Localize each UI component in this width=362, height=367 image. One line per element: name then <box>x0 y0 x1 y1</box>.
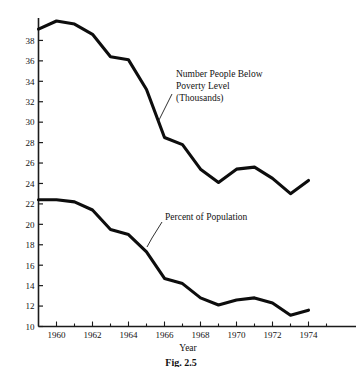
x-tick-label-1974: 1974 <box>300 330 319 340</box>
y-tick-label-36: 36 <box>26 56 36 66</box>
y-tick-label-16: 16 <box>26 261 36 271</box>
annotation-line-1-series-0: Number People Below <box>176 69 263 79</box>
x-tick-label-1970: 1970 <box>228 330 247 340</box>
y-tick-label-20: 20 <box>26 220 36 230</box>
y-tick-label-32: 32 <box>26 97 35 107</box>
x-tick-label-1972: 1972 <box>264 330 282 340</box>
annotation-line-3-series-0: (Thousands) <box>176 93 224 104</box>
x-tick-label-1966: 1966 <box>156 330 175 340</box>
x-tick-label-1964: 1964 <box>120 330 139 340</box>
x-tick-label-1968: 1968 <box>192 330 211 340</box>
y-tick-label-28: 28 <box>26 138 36 148</box>
poverty-line-chart: 101214161820222426283032343638 196019621… <box>0 0 362 367</box>
y-tick-label-34: 34 <box>26 77 36 87</box>
y-tick-label-24: 24 <box>26 179 36 189</box>
y-axis-tick-labels: 101214161820222426283032343638 <box>26 36 36 332</box>
x-axis-title: Year <box>179 343 197 353</box>
y-tick-label-38: 38 <box>26 36 36 46</box>
annotation-line-2-series-0: Poverty Level <box>176 81 230 91</box>
y-tick-label-14: 14 <box>26 281 36 291</box>
y-tick-label-12: 12 <box>26 301 35 311</box>
annotation-line-1-series-1: Percent of Population <box>165 212 248 222</box>
figure-container: 101214161820222426283032343638 196019621… <box>0 0 362 367</box>
x-tick-label-1962: 1962 <box>84 330 102 340</box>
figure-caption: Fig. 2.5 <box>165 357 196 367</box>
y-tick-label-22: 22 <box>26 199 35 209</box>
y-tick-label-26: 26 <box>26 158 36 168</box>
y-tick-label-30: 30 <box>26 117 36 127</box>
y-tick-label-18: 18 <box>26 240 36 250</box>
x-tick-label-1960: 1960 <box>48 330 67 340</box>
y-tick-label-10: 10 <box>26 322 36 332</box>
